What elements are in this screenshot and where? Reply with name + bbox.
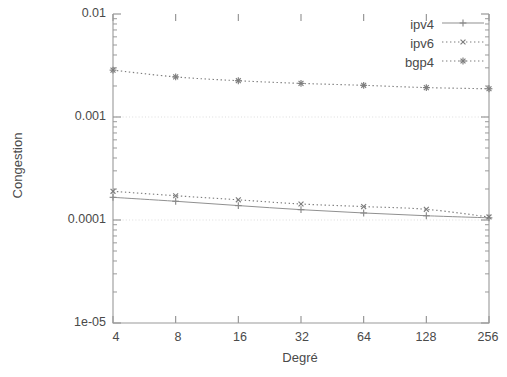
legend-sample-lines — [442, 20, 484, 65]
chart-figure: Congestion Degré 0.01 0.001 0.0001 1e-05… — [0, 0, 507, 377]
legend-label-ipv6: ipv6 — [372, 36, 434, 51]
legend-line-ipv6 — [442, 40, 484, 45]
x-tick-256: 256 — [466, 330, 507, 344]
x-tick-8: 8 — [156, 330, 200, 344]
y-axis-title: Congestion — [10, 121, 25, 211]
x-tick-64: 64 — [342, 330, 386, 344]
x-tick-32: 32 — [280, 330, 324, 344]
x-axis-title: Degré — [240, 350, 360, 365]
legend-label-bgp4: bgp4 — [372, 55, 434, 70]
legend-line-ipv4 — [442, 20, 484, 27]
series-bgp4 — [110, 67, 493, 92]
x-tick-128: 128 — [404, 330, 448, 344]
x-tick-4: 4 — [94, 330, 138, 344]
data-series-layer — [110, 67, 493, 221]
legend-label-ipv4: ipv4 — [372, 17, 434, 32]
legend-line-bgp4 — [442, 58, 484, 65]
series-ipv6 — [111, 189, 492, 220]
series-ipv4 — [110, 194, 493, 221]
x-tick-16: 16 — [218, 330, 262, 344]
